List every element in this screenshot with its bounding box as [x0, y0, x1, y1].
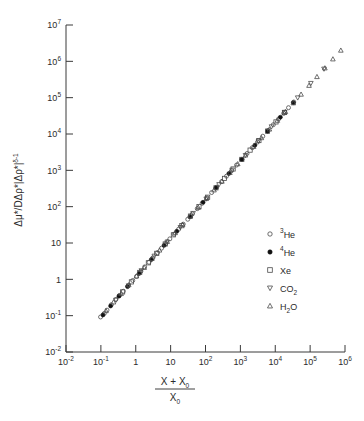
x-tick-label: 103 [234, 355, 248, 367]
data-point [287, 106, 291, 110]
legend-marker-H [267, 303, 272, 308]
data-point [315, 74, 320, 78]
x-axis-title-denominator: X0 [170, 392, 181, 405]
y-tick-label: 10 [51, 238, 61, 248]
y-tick-label: 104 [47, 127, 61, 139]
y-tick-label: 105 [47, 91, 61, 103]
x-axis-title: X + X0X0 [155, 376, 195, 405]
data-points-layer [99, 48, 344, 319]
y-tick-label: 107 [47, 18, 61, 30]
x-tick-label: 105 [303, 355, 317, 367]
data-point [101, 313, 105, 317]
y-axis-title-text: Δμ*/DΔρ*|Δρ*|δ-1 [12, 153, 25, 227]
x-tick-label: 1 [133, 357, 138, 367]
y-axis-ticks [66, 25, 73, 352]
y-tick-label: 1 [56, 275, 61, 285]
data-point [162, 243, 166, 247]
legend-label-4He: 4He [280, 245, 295, 258]
x-tick-label: 102 [199, 355, 213, 367]
x-tick-label: 106 [338, 355, 352, 367]
y-axis-title: Δμ*/DΔρ*|Δρ*|δ-1 [12, 153, 25, 227]
legend-marker-CO [267, 286, 272, 291]
y-tick-label: 10-2 [45, 345, 61, 357]
y-tick-label: 106 [47, 55, 61, 67]
legend-marker-Xe [268, 268, 273, 273]
x-tick-label: 10 [166, 357, 176, 367]
plot-canvas: 10-210-1110102103104105106107 10-210-111… [0, 0, 364, 421]
legend-label-Xe: Xe [280, 266, 291, 276]
data-point [331, 57, 336, 61]
x-tick-label: 10-2 [58, 355, 74, 367]
data-point [109, 304, 113, 308]
legend-label-3He: 3He [280, 227, 295, 240]
legend-label-CO: CO2 [280, 284, 298, 296]
scatter-plot-figure: 10-210-1110102103104105106107 10-210-111… [0, 0, 364, 421]
data-point [210, 191, 214, 195]
data-point [240, 157, 244, 161]
x-axis-ticks [66, 345, 345, 352]
x-axis-tick-labels: 10-210-1110102103104105106 [58, 355, 352, 367]
plot-axes [66, 25, 345, 352]
x-tick-label: 104 [268, 355, 282, 367]
x-axis-title-numerator: X + X0 [161, 376, 190, 389]
legend-label-H: H2O [280, 302, 297, 314]
axis-frame [66, 25, 345, 352]
data-point [339, 48, 344, 52]
y-axis-tick-labels: 10-210-1110102103104105106107 [45, 18, 61, 357]
legend-marker-3He [268, 232, 272, 236]
chart-legend: 3He4HeXeCO2H2O [267, 227, 297, 314]
y-tick-label: 102 [47, 200, 61, 212]
y-tick-label: 103 [47, 164, 61, 176]
data-point [131, 278, 135, 282]
y-tick-label: 10-1 [45, 309, 61, 321]
legend-marker-4He [268, 250, 272, 254]
data-point [299, 92, 304, 96]
data-point [278, 115, 282, 119]
x-tick-label: 10-1 [93, 355, 109, 367]
